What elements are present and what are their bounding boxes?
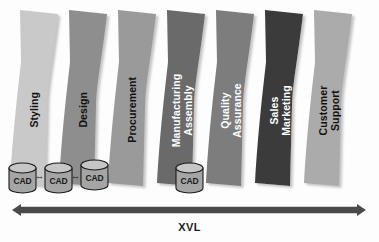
cad-node-1-label: CAD (9, 176, 36, 186)
cad-link-arrow-2: ↔ (71, 171, 80, 181)
cad-node-2-label: CAD (45, 176, 72, 186)
cad-node-3: CAD (81, 160, 108, 190)
process-band-procurement (108, 10, 156, 186)
process-bands-layer (0, 0, 379, 242)
process-lifecycle-diagram: Styling Design Procurement Manufacturing… (0, 0, 379, 242)
cad-node-4: CAD (176, 163, 203, 193)
cad-node-4-label: CAD (176, 176, 203, 186)
process-band-sales-marketing (255, 10, 303, 186)
xvl-span-label: XVL (0, 221, 379, 233)
process-band-customer-support (304, 10, 352, 186)
cad-node-3-label: CAD (81, 173, 108, 183)
cad-node-1: CAD (9, 163, 36, 193)
cad-node-2: CAD (45, 163, 72, 193)
cad-link-arrow-1: ↔ (35, 171, 44, 181)
xvl-span-arrow (12, 204, 366, 216)
process-band-manufacturing-assembly (157, 10, 205, 186)
process-band-quality-assurance (206, 10, 254, 186)
process-band-styling (10, 10, 58, 186)
